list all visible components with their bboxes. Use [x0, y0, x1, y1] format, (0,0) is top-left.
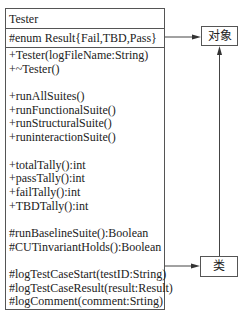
- class-box: 类: [200, 256, 238, 277]
- class-label: 类: [213, 259, 225, 273]
- object-box: 对象: [201, 26, 238, 46]
- object-label: 对象: [208, 29, 232, 43]
